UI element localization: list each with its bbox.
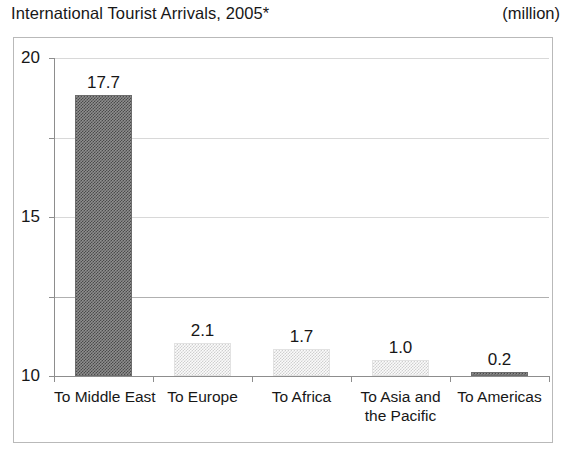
x-axis-category-label: To Europe [153, 387, 252, 406]
x-tick-mark [549, 376, 550, 382]
x-tick-mark [450, 376, 451, 382]
bar-value-label: 0.2 [488, 350, 512, 370]
category-label-line: To Middle East [54, 388, 156, 405]
y-tick-label: 15 [21, 207, 40, 227]
category-label-line: To Europe [167, 388, 238, 405]
y-tick-label: 20 [21, 48, 40, 68]
category-label-line: To Americas [457, 388, 541, 405]
x-tick-mark [351, 376, 352, 382]
bar[interactable]: 0.2 [471, 372, 528, 376]
bar[interactable]: 1.0 [372, 360, 429, 376]
y-tick-label: 10 [21, 366, 40, 386]
units-label: (million) [502, 4, 560, 23]
page-title: International Tourist Arrivals, 2005* [11, 4, 269, 23]
y-tick-mark: 15 [49, 138, 55, 139]
gridline [54, 58, 549, 59]
bar-value-label: 1.7 [290, 327, 314, 347]
x-tick-mark [153, 376, 154, 382]
chart-header: International Tourist Arrivals, 2005* (m… [0, 0, 574, 33]
y-tick-mark: 10 [49, 217, 55, 218]
y-tick-mark: 20 [49, 58, 55, 59]
category-label-line: the Pacific [365, 407, 437, 424]
x-axis-category-label: To Middle East [54, 387, 153, 406]
bar-value-label: 2.1 [191, 321, 215, 341]
x-axis-category-label: To Asia andthe Pacific [351, 387, 450, 425]
bar-value-label: 17.7 [87, 73, 120, 93]
bar[interactable]: 17.7 [75, 95, 132, 376]
x-axis-category-label: To Africa [252, 387, 351, 406]
bar[interactable]: 2.1 [174, 343, 231, 376]
category-label-line: To Africa [272, 388, 331, 405]
plot-area: 05101520 17.72.11.71.00.2 To Middle East… [54, 58, 549, 376]
x-tick-mark [54, 376, 55, 382]
x-axis-line [54, 376, 549, 377]
category-label-line: To Asia and [360, 388, 440, 405]
x-tick-mark [252, 376, 253, 382]
y-tick-mark: 5 [49, 297, 55, 298]
chart-frame: 05101520 17.72.11.71.00.2 To Middle East… [13, 37, 553, 443]
x-axis-category-label: To Americas [450, 387, 549, 406]
bar-value-label: 1.0 [389, 338, 413, 358]
bar[interactable]: 1.7 [273, 349, 330, 376]
